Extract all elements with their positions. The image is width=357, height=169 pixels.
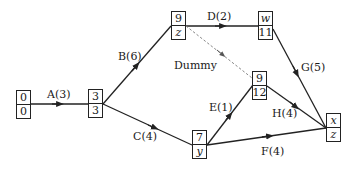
edge-e [207, 85, 253, 145]
label-activity-dummy: Dummy [174, 60, 217, 71]
node-7-y: 7 y [192, 130, 207, 159]
label-activity-e: E(1) [209, 102, 233, 113]
node-9-z: 9 z [171, 11, 186, 40]
label-activity-f: F(4) [261, 146, 284, 157]
label-activity-h: H(4) [272, 108, 297, 119]
activity-network-diagram: 0 0 3 3 9 z w 11 9 12 7 y x z A(3) B(6) … [0, 0, 357, 169]
node-latest-time: z [327, 128, 340, 141]
node-latest-time: 3 [89, 104, 102, 117]
node-latest-time: 11 [259, 26, 272, 39]
label-activity-c: C(4) [133, 131, 157, 142]
label-activity-g: G(5) [301, 62, 325, 73]
edge-f [207, 128, 326, 145]
node-earliest-time: w [259, 12, 272, 26]
node-latest-time: 12 [253, 86, 266, 99]
node-earliest-time: x [327, 114, 340, 128]
node-earliest-time: 9 [253, 72, 266, 86]
node-9-12: 9 12 [252, 71, 267, 100]
node-earliest-time: 9 [172, 12, 185, 26]
node-earliest-time: 7 [193, 131, 206, 145]
node-earliest-time: 0 [17, 91, 30, 105]
node-latest-time: y [193, 145, 206, 158]
node-x-z: x z [326, 113, 341, 142]
node-latest-time: 0 [17, 105, 30, 118]
label-activity-a: A(3) [47, 89, 71, 100]
node-3-3: 3 3 [88, 89, 103, 118]
edge-b [103, 26, 171, 104]
node-0-0: 0 0 [16, 90, 31, 119]
node-w-11: w 11 [258, 11, 273, 40]
label-activity-d: D(2) [207, 11, 231, 22]
label-activity-b: B(6) [118, 51, 142, 62]
node-latest-time: z [172, 26, 185, 39]
node-earliest-time: 3 [89, 90, 102, 104]
